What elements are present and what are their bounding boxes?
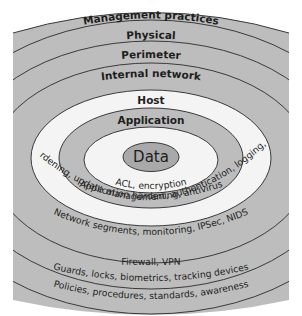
layer-title-physical: Physical bbox=[126, 28, 176, 41]
controls-perimeter: Firewall, VPN bbox=[121, 256, 180, 267]
layer-title-application: Application bbox=[118, 114, 185, 126]
layer-title-data: Data bbox=[133, 148, 169, 166]
defense-in-depth-diagram: Management practices Physical Perimeter … bbox=[0, 0, 302, 316]
layer-title-host: Host bbox=[137, 94, 164, 106]
layer-title-perimeter: Perimeter bbox=[121, 48, 182, 61]
